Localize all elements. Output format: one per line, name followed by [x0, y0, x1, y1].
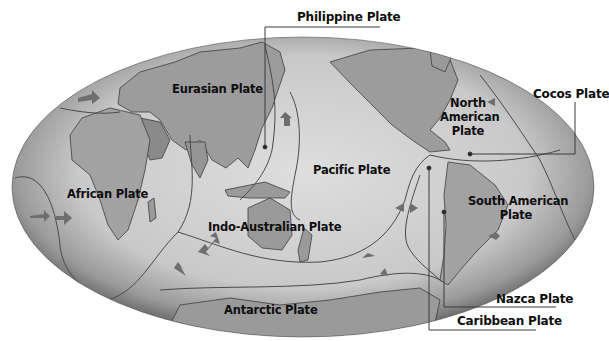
label-north-american-plate: North American Plate	[440, 96, 496, 138]
label-south-american-plate: South American Plate	[468, 194, 564, 222]
label-nazca-plate: Nazca Plate	[496, 292, 573, 306]
label-south-american-line1: South American	[468, 194, 564, 208]
label-african-plate: African Plate	[67, 187, 148, 201]
label-north-american-line3: Plate	[440, 124, 496, 138]
label-pacific-plate: Pacific Plate	[313, 163, 390, 177]
label-philippine-plate: Philippine Plate	[297, 10, 401, 24]
label-antarctic-plate: Antarctic Plate	[224, 303, 318, 317]
label-south-american-line2: Plate	[468, 208, 564, 222]
label-north-american-line2: American	[440, 110, 496, 124]
label-north-american-line1: North	[440, 96, 496, 110]
label-indo-australian-plate: Indo-Australian Plate	[208, 220, 341, 234]
label-eurasian-plate: Eurasian Plate	[172, 82, 263, 96]
label-caribbean-plate: Caribbean Plate	[457, 314, 562, 328]
label-cocos-plate: Cocos Plate	[533, 87, 609, 101]
